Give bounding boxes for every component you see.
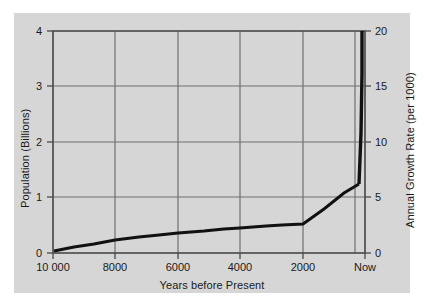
x-tick-label-now: Now: [338, 261, 392, 273]
chart-panel: 4 3 2 1 0 20 15 10 5 0 10 000 8000 6000 …: [14, 13, 410, 293]
y2-tick-label-15: 15: [375, 80, 401, 92]
y2-tick-label-10: 10: [375, 136, 401, 148]
x-tick-label-6000: 6000: [151, 261, 205, 273]
right-axis-ticks: [365, 31, 371, 253]
bottom-axis-ticks: [53, 253, 365, 259]
y2-tick-label-0: 0: [375, 247, 401, 259]
y-tick-label-3: 3: [22, 80, 42, 92]
y2-tick-label-20: 20: [375, 25, 401, 37]
horizontal-gridlines: [53, 31, 365, 253]
x-tick-label-2000: 2000: [276, 261, 330, 273]
population-curve: [54, 184, 359, 251]
x-axis-title: Years before Present: [14, 279, 410, 291]
y2-tick-label-5: 5: [375, 191, 401, 203]
x-tick-label-8000: 8000: [88, 261, 142, 273]
y-tick-label-0: 0: [22, 247, 42, 259]
x-tick-label-4000: 4000: [213, 261, 267, 273]
y-axis-title: Population (Billions): [19, 109, 31, 208]
growth-spike-curve: [359, 31, 362, 184]
y2-axis-title: Annual Growth Rate (per 1000): [404, 72, 416, 228]
population-growth-chart: [14, 13, 410, 293]
x-tick-label-10000: 10 000: [23, 261, 83, 273]
left-axis-ticks: [47, 31, 53, 253]
y-tick-label-4: 4: [22, 25, 42, 37]
figure-canvas: 4 3 2 1 0 20 15 10 5 0 10 000 8000 6000 …: [0, 0, 424, 308]
